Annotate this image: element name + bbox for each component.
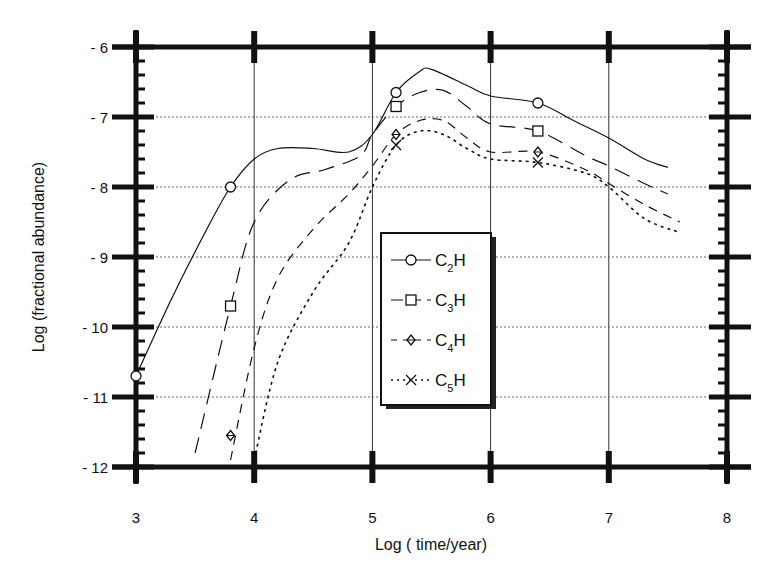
x-axis-label: Log ( time/year) [375,536,487,553]
square-marker-icon [226,301,236,311]
x-tick-label: 3 [132,509,140,526]
x-tick-label: 8 [723,509,731,526]
square-marker-icon [406,295,416,305]
y-axis-label: Log (fractional abundance) [30,162,47,352]
circle-marker-icon [406,255,416,265]
x-tick-label: 7 [605,509,613,526]
legend: C2HC3HC4HC5H [381,233,496,409]
y-tick-label: - 7 [90,109,108,126]
circle-marker-icon [131,371,141,381]
circle-marker-icon [533,98,543,108]
y-tick-label: - 8 [90,179,108,196]
y-tick-labels: - 6- 7- 8- 9- 10- 11- 12 [82,39,108,476]
circle-marker-icon [226,182,236,192]
y-tick-label: - 9 [90,249,108,266]
x-tick-label: 6 [486,509,494,526]
y-tick-label: - 10 [82,319,108,336]
y-tick-label: - 12 [82,459,108,476]
x-tick-label: 4 [250,509,258,526]
y-tick-label: - 6 [90,39,108,56]
circle-marker-icon [391,88,401,98]
square-marker-icon [533,126,543,136]
x-tick-label: 5 [368,509,376,526]
x-marker-icon [391,140,401,150]
y-tick-label: - 11 [83,389,108,406]
abundance-chart: - 6- 7- 8- 9- 10- 11- 12 345678 Log ( ti… [0,0,777,584]
square-marker-icon [391,102,401,112]
x-tick-labels: 345678 [132,509,731,526]
